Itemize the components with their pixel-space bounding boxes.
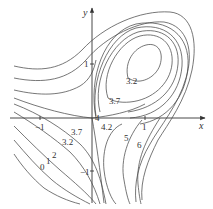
contour-plot: x y −1 1 1 −1 3.2 3.7 4 4.2 5 6 3.7 3.2 … — [0, 0, 213, 209]
contour-label-3.2-top: 3.2 — [126, 76, 137, 86]
contour-label-4: 4 — [95, 113, 100, 123]
contour-label-1: 1 — [46, 156, 51, 166]
contour-label-3.7-bottom: 3.7 — [71, 127, 83, 137]
contour-upper-2 — [14, 22, 189, 202]
tick-label-x-pos1: 1 — [142, 122, 147, 132]
tick-label-y-neg1: −1 — [80, 167, 90, 177]
x-axis-label: x — [198, 120, 204, 131]
contour-label-4.2: 4.2 — [101, 122, 112, 132]
contour-label-3.7-top: 3.7 — [109, 96, 121, 106]
contour-label-0: 0 — [40, 162, 45, 172]
contour-label-3.2-bottom: 3.2 — [62, 137, 73, 147]
contour-4.2 — [104, 124, 122, 204]
contour-loops-upper-right — [94, 23, 188, 124]
contour-label-2: 2 — [52, 150, 57, 160]
contour-4-left — [14, 98, 92, 118]
tick-label-x-neg1: −1 — [35, 122, 45, 132]
contour-label-6: 6 — [137, 140, 142, 150]
y-axis-label: y — [82, 7, 88, 18]
contour-2 — [14, 126, 96, 204]
tick-label-y-pos1: 1 — [84, 59, 89, 69]
contour-label-5: 5 — [124, 133, 129, 143]
contour-3.7-loop — [106, 35, 172, 102]
